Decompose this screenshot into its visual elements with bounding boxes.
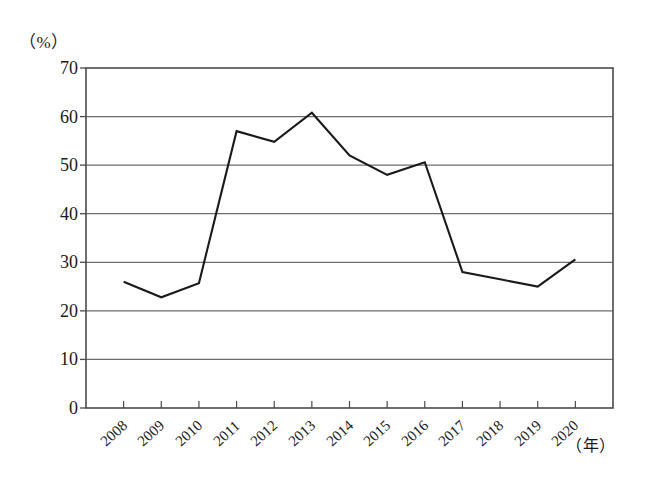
gridlines (86, 117, 613, 360)
line-chart: （%） （年） 706050403020100 2008200920102011… (0, 0, 667, 492)
x-axis-ticks (124, 401, 576, 408)
data-series-line (124, 113, 576, 298)
plot-area (0, 0, 667, 492)
plot-frame (86, 68, 613, 408)
y-axis-ticks (80, 68, 86, 408)
